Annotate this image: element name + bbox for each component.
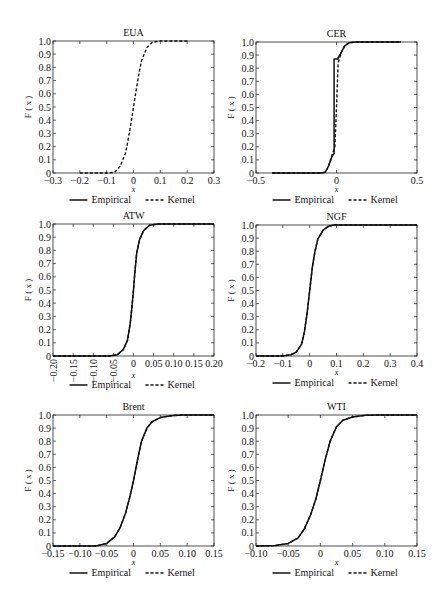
y-tick-label: 0.5 (242, 102, 255, 113)
chart-panel-wti: WTI00.10.20.30.40.50.60.70.80.91.0−0.10−… (226, 401, 426, 578)
y-tick-label: 0.8 (242, 436, 255, 447)
y-tick-label: 0.5 (39, 102, 52, 113)
legend: EmpiricalKernel (273, 377, 398, 388)
y-tick-label: 0.6 (242, 89, 255, 100)
y-tick-label: 0.9 (242, 50, 255, 61)
y-tick-label: 0.1 (242, 527, 255, 538)
x-tick-label: 0.15 (205, 548, 223, 559)
y-tick-label: 0.7 (39, 75, 52, 86)
y-tick-label: 0.3 (242, 311, 255, 322)
x-tick-label: 0.5 (411, 175, 424, 186)
x-tick-label: −0.05 (277, 548, 300, 559)
legend: EmpiricalKernel (273, 567, 398, 578)
y-tick-label: 0.2 (39, 514, 52, 525)
series-empirical-line (256, 415, 417, 546)
y-tick-label: 0.8 (242, 246, 255, 257)
y-axis-label: F ( x ) (23, 469, 33, 491)
x-axis-label: x (131, 558, 136, 567)
series-empirical-line (256, 225, 417, 356)
y-tick-label: 0.9 (39, 49, 52, 60)
x-tick-label: 0.10 (165, 358, 183, 369)
y-tick-label: 1.0 (39, 219, 52, 230)
legend: EmpiricalKernel (273, 194, 398, 205)
legend-empirical-label: Empirical (295, 377, 335, 388)
x-axis-label: x (334, 185, 339, 194)
x-tick-label: −0.2 (247, 358, 265, 369)
legend-empirical-label: Empirical (295, 567, 335, 578)
y-tick-label: 0.2 (242, 514, 255, 525)
y-tick-label: 0.7 (242, 76, 255, 87)
y-tick-label: 0.9 (39, 232, 52, 243)
x-tick-label: −0.05 (95, 548, 118, 559)
legend-kernel-label: Kernel (371, 377, 398, 388)
plot-frame (256, 42, 417, 173)
y-tick-label: 0.9 (242, 233, 255, 244)
chart-panel-ngf: NGF00.10.20.30.40.50.60.70.80.91.0−0.2−0… (226, 211, 423, 388)
y-tick-label: 0.1 (39, 527, 52, 538)
legend: EmpiricalKernel (70, 567, 195, 578)
y-tick-label: 0.6 (39, 88, 52, 99)
plot-frame (256, 415, 417, 546)
y-tick-label: 0.2 (242, 141, 255, 152)
y-tick-label: 0.5 (39, 475, 52, 486)
chart-title: CER (327, 28, 347, 39)
y-tick-label: 0.4 (242, 488, 255, 499)
y-tick-label: 0.8 (39, 436, 52, 447)
y-tick-label: 1.0 (242, 410, 255, 421)
x-tick-label: −0.20 (48, 359, 59, 382)
chart-title: NGF (326, 211, 346, 222)
y-tick-label: 0.9 (39, 423, 52, 434)
y-tick-label: 0.4 (242, 115, 255, 126)
series-empirical-line (53, 224, 214, 356)
y-axis-label: F ( x ) (226, 279, 236, 301)
y-axis-label: F ( x ) (23, 96, 33, 118)
y-tick-label: 0.6 (242, 272, 255, 283)
series-empirical-line (272, 42, 401, 173)
x-tick-label: −0.15 (68, 359, 79, 382)
legend: EmpiricalKernel (70, 194, 195, 205)
y-tick-label: 0.7 (242, 259, 255, 270)
y-axis-label: F ( x ) (23, 279, 33, 301)
legend-empirical-label: Empirical (92, 567, 132, 578)
x-axis-label: x (131, 371, 136, 380)
y-axis-label: F ( x ) (226, 469, 236, 491)
series-kernel-line (272, 42, 401, 173)
x-tick-label: 0.10 (178, 548, 196, 559)
y-tick-label: 0.3 (242, 128, 255, 139)
x-tick-label: −0.5 (247, 175, 265, 186)
x-tick-label: 0.3 (208, 175, 221, 186)
plot-frame (256, 225, 417, 356)
y-tick-label: 0.5 (242, 475, 255, 486)
x-tick-label: 0.4 (411, 358, 424, 369)
chart-panel-brent: Brent00.10.20.30.40.50.60.70.80.91.0−0.1… (23, 401, 223, 578)
y-tick-label: 0.4 (39, 298, 52, 309)
y-tick-label: 0.1 (242, 154, 255, 165)
y-tick-label: 0.8 (39, 245, 52, 256)
y-tick-label: 0.7 (242, 449, 255, 460)
y-tick-label: 1.0 (39, 36, 52, 47)
y-tick-label: 0.6 (242, 462, 255, 473)
x-tick-label: 0.05 (344, 548, 362, 559)
legend-kernel-label: Kernel (168, 194, 195, 205)
x-tick-label: −0.10 (244, 548, 267, 559)
cdf-figure-grid: EUA00.10.20.30.40.50.60.70.80.91.0−0.3−0… (0, 0, 448, 614)
y-tick-label: 0.3 (242, 501, 255, 512)
x-axis-label: x (131, 185, 136, 194)
x-tick-label: −0.10 (68, 548, 91, 559)
x-tick-label: −0.15 (41, 548, 64, 559)
x-tick-label: 0.3 (384, 358, 397, 369)
x-tick-label: −0.1 (274, 358, 292, 369)
y-tick-label: 0.3 (39, 311, 52, 322)
y-tick-label: 0.4 (242, 298, 255, 309)
x-tick-label: 0 (318, 548, 323, 559)
x-axis-label: x (334, 558, 339, 567)
y-tick-label: 0.1 (242, 337, 255, 348)
legend-kernel-label: Kernel (371, 194, 398, 205)
y-tick-label: 0.3 (39, 501, 52, 512)
legend-kernel-label: Kernel (168, 379, 195, 390)
y-tick-label: 0.8 (39, 62, 52, 73)
y-tick-label: 0.7 (39, 449, 52, 460)
x-tick-label: −0.2 (71, 175, 89, 186)
y-tick-label: 1.0 (39, 410, 52, 421)
y-tick-label: 0.6 (39, 271, 52, 282)
